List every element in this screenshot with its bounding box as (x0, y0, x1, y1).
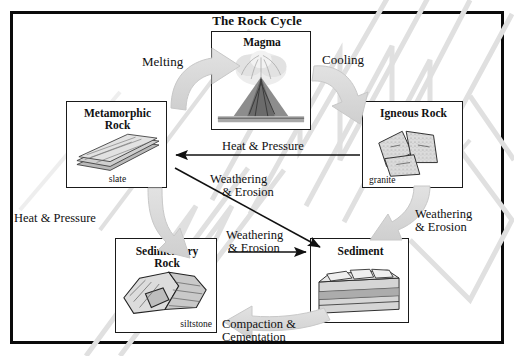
weathering-erosion-diagonal-arrow (175, 168, 320, 247)
rock-cycle-diagram: Magma Metamorphic Rock slate (0, 0, 514, 356)
black-arrow-layer (0, 0, 514, 356)
